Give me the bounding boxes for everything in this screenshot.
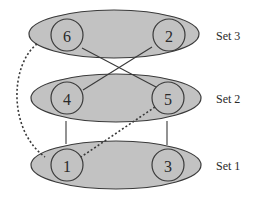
node-3-label: 3	[164, 158, 172, 175]
set-diagram: 6 2 4 5 1 3 Set 3 Set 2 Set 1	[0, 0, 255, 197]
set-1-ellipse	[31, 141, 201, 189]
node-4-label: 4	[63, 91, 71, 108]
set-labels-layer: Set 3 Set 2 Set 1	[216, 29, 240, 173]
node-6-label: 6	[63, 28, 71, 45]
set-2-label: Set 2	[216, 92, 240, 106]
set-1-label: Set 1	[216, 159, 240, 173]
node-5-label: 5	[164, 91, 172, 108]
set-3-label: Set 3	[216, 29, 240, 43]
set-2-ellipse	[31, 74, 201, 122]
node-1-label: 1	[63, 158, 71, 175]
node-2-label: 2	[165, 28, 173, 45]
diagram-svg: 6 2 4 5 1 3 Set 3 Set 2 Set 1	[0, 0, 255, 197]
sets-layer	[29, 10, 201, 189]
